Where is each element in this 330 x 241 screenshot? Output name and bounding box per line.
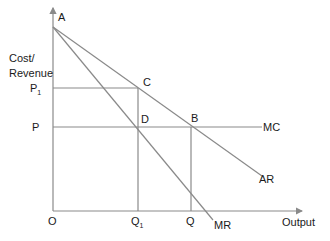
y-axis-label-line2: Revenue (9, 67, 53, 79)
curve-label-ar: AR (259, 173, 274, 185)
price-label-p1: P1 (30, 82, 41, 96)
point-label-d: D (141, 113, 149, 125)
monopoly-diagram: Cost/ Revenue P1 P O Q1 Q Output A C D B… (0, 0, 330, 241)
y-axis-label-line1: Cost/ (9, 52, 36, 64)
origin-label: O (48, 215, 57, 227)
x-axis-label: Output (282, 216, 315, 228)
curve-label-mc: MC (263, 121, 280, 133)
curve-label-mr: MR (214, 219, 231, 231)
quantity-label-q: Q (186, 215, 195, 227)
point-label-a: A (58, 11, 66, 23)
point-label-c: C (143, 76, 151, 88)
quantity-label-q1: Q1 (131, 215, 144, 229)
price-label-p: P (32, 121, 39, 133)
point-label-b: B (191, 112, 198, 124)
